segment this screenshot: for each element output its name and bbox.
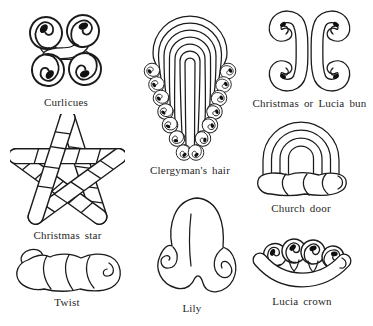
clergymans-hair-label: Clergyman's hair: [150, 164, 230, 176]
figure-church-door: Church door: [251, 114, 351, 214]
lily-outline: [158, 198, 236, 292]
church-door-roll: [258, 173, 347, 196]
twist-roll: [17, 247, 120, 291]
clergymans-hair-curls: [144, 63, 236, 160]
christmas-star-illustration: [10, 114, 125, 225]
twist-label: Twist: [54, 296, 79, 308]
church-door-illustration: [251, 114, 351, 202]
figure-lily: Lily: [145, 190, 239, 314]
figure-clergymans-hair: Clergyman's hair: [141, 6, 239, 176]
page-canvas: Curlicues: [0, 0, 373, 326]
lucia-crown-illustration: [252, 224, 352, 292]
christmas-or-lucia-bun-illustration: [262, 5, 357, 97]
church-door-label: Church door: [271, 202, 331, 214]
figure-twist: Twist: [10, 246, 124, 308]
christmas-star-label: Christmas star: [33, 229, 101, 241]
lucia-crown-label: Lucia crown: [272, 295, 331, 307]
figure-christmas-or-lucia-bun: Christmas or Lucia bun: [262, 5, 357, 109]
curlicues-label: Curlicues: [44, 96, 88, 108]
twist-illustration: [10, 246, 124, 294]
lily-label: Lily: [182, 302, 201, 314]
figure-curlicues: Curlicues: [20, 6, 112, 108]
church-door-arches: [263, 122, 339, 178]
figure-christmas-star: Christmas star: [10, 114, 125, 241]
curlicues-illustration: [20, 6, 112, 96]
christmas-or-lucia-bun-label: Christmas or Lucia bun: [253, 97, 367, 109]
lily-illustration: [145, 190, 239, 302]
star-braid: [16, 118, 119, 217]
clergymans-hair-illustration: [141, 6, 239, 164]
figure-lucia-crown: Lucia crown: [252, 224, 352, 307]
